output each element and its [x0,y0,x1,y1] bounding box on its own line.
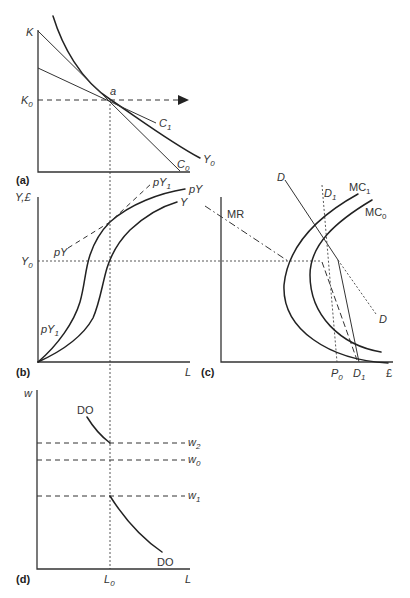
panel-b-production: Y,£ Y0 pY pY1 pY Y pY1 L (b) [15,176,203,378]
panel-a-tag: (a) [16,174,30,186]
mc1-curve [284,194,388,363]
mc0-curve [310,200,381,352]
y0-isoquant-label: Y0 [203,153,215,168]
do-lower-label: DO [157,556,174,568]
py-curve [38,189,185,362]
mr-line [205,206,288,261]
economics-figure: K K0 a C1 C0 Y0 (a) Y,£ Y0 pY pY1 pY Y p… [0,0,410,598]
d1-top-label: D1 [324,187,336,202]
y0-label: Y0 [21,255,33,270]
d1-bottom-label: D1 [353,367,365,382]
panel-c-axes [221,197,393,362]
do-lower-curve [110,496,162,552]
isocost-line-c1 [38,68,156,123]
py1-low-label: pY1 [40,323,59,338]
panel-d-labour: w DO w2 w0 w1 DO L0 L (d) [16,387,201,588]
mc1-label: MC1 [349,181,371,196]
l0-label: L0 [104,573,115,588]
w-axis-label: w [24,387,33,399]
panel-b-tag: (b) [16,366,30,378]
panel-c-market: MR D D1 MC1 MC0 D P0 D1 £ (c) [201,171,393,382]
y-curve [38,202,177,362]
d-top-label: D [277,171,285,183]
py-left-label: pY [53,246,68,258]
panel-a-isoquant: K K0 a C1 C0 Y0 (a) [16,16,215,186]
py1-top-label: pY1 [152,176,171,191]
mr-label: MR [227,208,244,220]
y-pound-axis-label: Y,£ [15,191,31,203]
d-right-label: D [379,313,387,325]
w0-label: w0 [188,453,201,468]
l-axis-label-d: L [185,573,191,585]
pound-axis-label: £ [386,367,392,379]
panel-d-tag: (d) [16,573,30,585]
c0-label: C0 [177,158,190,173]
mr-extension-line [322,262,357,360]
mc0-label: MC0 [365,206,387,221]
panel-c-tag: (c) [201,366,215,378]
isoquant-y0 [53,16,200,158]
k-axis-label: K [26,26,34,38]
py-right-label: pY [188,183,203,195]
w1-label: w1 [188,489,200,504]
panel-a-axes [38,30,190,172]
p0-label: P0 [331,367,343,382]
point-a-label: a [110,85,116,97]
k0-label: K0 [21,94,33,109]
do-upper-label: DO [77,404,94,416]
w2-label: w2 [188,436,201,451]
y-curve-label: Y [180,196,188,208]
panel-d-axes [37,390,190,569]
isocost-line-c0 [38,31,180,171]
c1-label: C1 [159,117,171,132]
arrow-right-icon [178,95,189,105]
do-upper-curve [87,417,110,443]
l-axis-label-b: L [185,366,191,378]
